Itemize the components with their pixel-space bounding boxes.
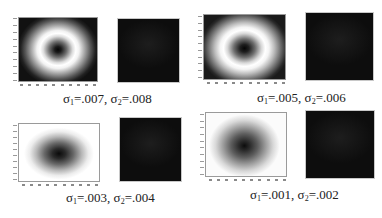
sigma-symbol: σ: [114, 190, 121, 205]
sigma2-value: =.006: [316, 90, 346, 105]
sigma-symbol: σ: [298, 187, 305, 202]
sigma-symbol: σ: [66, 190, 73, 205]
x-axis-ticks: [207, 82, 285, 84]
residual-image: [117, 18, 180, 83]
sigma-symbol: σ: [250, 187, 257, 202]
residual-image: [305, 12, 374, 81]
residual-image: [119, 117, 182, 182]
panel-caption: σ1=.007, σ2=.008: [63, 92, 152, 106]
panel-caption: σ1=.001, σ2=.002: [250, 188, 339, 202]
y-axis-ticks: [200, 114, 204, 175]
y-axis-ticks: [13, 125, 17, 180]
sigma2-value: =.004: [125, 190, 155, 205]
sigma1-value: =.001,: [261, 187, 298, 202]
sigma1-value: =.005,: [268, 90, 305, 105]
sigma-symbol: σ: [257, 90, 264, 105]
heatmap-image: [18, 17, 98, 82]
sigma2-value: =.002: [309, 187, 339, 202]
sigma2-value: =.008: [122, 91, 152, 106]
sigma1-value: =.007,: [74, 91, 111, 106]
sigma-symbol: σ: [305, 90, 312, 105]
heatmap-image: [203, 14, 286, 80]
x-axis-ticks: [22, 184, 98, 186]
y-axis-ticks: [198, 16, 202, 78]
x-axis-ticks: [20, 84, 96, 86]
heatmap-image: [205, 112, 287, 177]
sigma-symbol: σ: [63, 91, 70, 106]
panel-caption: σ1=.005, σ2=.006: [257, 91, 346, 105]
panel-caption: σ1=.003, σ2=.004: [66, 191, 155, 205]
sigma1-value: =.003,: [77, 190, 114, 205]
heatmap-image: [18, 123, 100, 182]
x-axis-ticks: [209, 179, 286, 181]
residual-image: [305, 110, 375, 179]
y-axis-ticks: [13, 18, 17, 81]
sigma-symbol: σ: [111, 91, 118, 106]
